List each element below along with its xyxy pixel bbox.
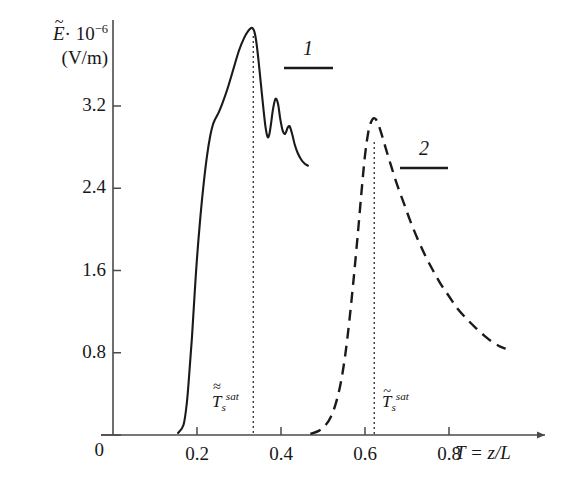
x-tick-label: 0.6 — [340, 443, 390, 465]
sat-label-2: ~Tssat — [382, 390, 409, 413]
y-tick-label: 0 — [82, 439, 104, 461]
y-axis-exponent: −6 — [95, 22, 108, 36]
y-tick-label: 1.6 — [60, 259, 106, 281]
x-tick-label: 0.4 — [256, 443, 306, 465]
curve-1-path — [178, 28, 308, 433]
curve-2-path — [310, 118, 505, 434]
sat-label-1-sub: s — [221, 401, 225, 413]
chart-canvas — [0, 0, 561, 485]
sat-dotted-lines — [253, 36, 374, 435]
y-axis-factor: · 10 — [65, 23, 95, 44]
sat-label-2-sub: s — [391, 401, 395, 413]
y-tick-label: 0.8 — [60, 341, 106, 363]
y-axis-title: ~E· 10−6 (V/m) — [8, 22, 108, 69]
x-axis-arrow — [537, 432, 545, 439]
double-tilde-accent: ≈ — [213, 378, 221, 395]
y-tick-label: 2.4 — [60, 176, 106, 198]
tilde-accent: ~ — [55, 12, 64, 32]
y-axis-units: (V/m) — [8, 46, 108, 69]
axis-lines — [101, 20, 545, 438]
x-tick-label: 0.2 — [172, 443, 222, 465]
figure-container: ~E· 10−6 (V/m) T = z/L 00.81.62.43.2 0.2… — [0, 0, 561, 485]
single-tilde-accent: ~ — [383, 383, 391, 400]
y-tick-label: 3.2 — [60, 94, 106, 116]
legend-label-1: 1 — [295, 37, 321, 60]
x-tick-marks — [197, 427, 449, 435]
sat-label-1-sup: sat — [226, 390, 239, 402]
x-tick-label: 0.8 — [424, 443, 474, 465]
y-axis-symbol: ~E — [53, 23, 65, 44]
legend-label-2: 2 — [411, 137, 437, 160]
sat-label-1: ≈Tssat — [212, 390, 239, 413]
sat-label-2-sup: sat — [396, 390, 409, 402]
